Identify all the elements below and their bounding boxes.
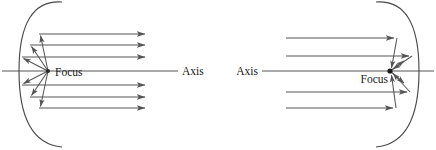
left-parabola-diagram: Focus Axis [2,2,204,147]
left-focus-point [46,69,50,73]
right-converging-rays [392,38,413,108]
right-conv-ray-1 [392,38,398,68]
right-focus-point [387,68,392,73]
right-focus-label: Focus [361,73,389,85]
left-axis-label: Axis [182,65,204,77]
left-focus-label: Focus [55,66,83,78]
right-axis-label: Axis [236,65,258,77]
ray-diagram-canvas: Focus Axis [0,0,436,150]
ray-diagram-figure: Focus Axis [0,0,436,150]
right-parabola-diagram: Focus Axis [236,2,434,147]
